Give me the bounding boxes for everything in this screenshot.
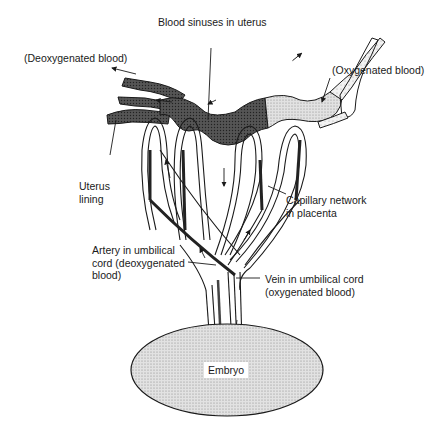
blood-sinuses [160,85,343,145]
label-deoxygenated-blood: (Deoxygenated blood) [24,52,127,65]
label-uterus-lining: Uterus lining [79,180,110,205]
label-umbilical-vein: Vein in umbilical cord (oxygenated blood… [265,273,364,298]
label-capillary-network: Capillary network in placenta [286,194,367,219]
label-embryo: Embryo [208,364,244,377]
label-oxygenated-blood: (Oxygenated blood) [332,64,424,77]
label-blood-sinuses: Blood sinuses in uterus [158,16,267,29]
label-umbilical-artery: Artery in umbilical cord (deoxygenated b… [92,244,185,282]
